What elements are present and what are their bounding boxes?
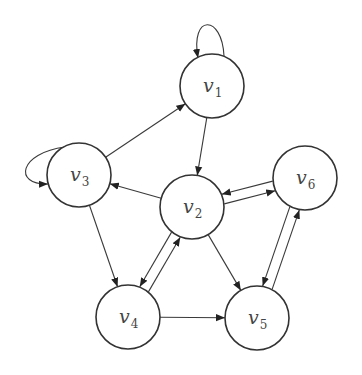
edge-v1-to-v2 [197,118,207,176]
edge-v2-to-v5 [208,235,241,291]
edge-v5-to-v6 [272,210,299,289]
nodes-layer: v1v2v3v4v5v6 [47,54,337,350]
node-v2: v2 [160,175,224,239]
node-v1: v1 [180,54,244,118]
node-v6: v6 [273,146,337,210]
edge-v6-to-v5 [263,207,290,286]
edge-v4-to-v5 [160,317,225,318]
edge-v2-to-v3 [110,184,161,199]
node-v3: v3 [47,143,111,207]
node-v4: v4 [96,285,160,349]
node-v5: v5 [225,286,289,350]
directed-graph: v1v2v3v4v5v6 [0,0,362,375]
edge-v3-to-v1 [106,104,186,157]
edge-v1-to-v1 [197,25,224,58]
edge-v6-to-v2 [222,181,273,194]
edge-v3-to-v4 [89,205,117,287]
edge-v2-to-v6 [224,191,275,204]
